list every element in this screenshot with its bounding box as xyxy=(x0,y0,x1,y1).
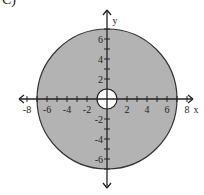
region-plot: -8-6-4-22468642-2-4-6xy xyxy=(0,0,204,195)
x-tick-label: -2 xyxy=(83,104,91,115)
x-tick-label: 6 xyxy=(165,104,170,115)
x-tick-label: 2 xyxy=(125,104,130,115)
y-tick-label: 2 xyxy=(98,74,103,85)
y-tick-label: -2 xyxy=(95,114,103,125)
x-tick-label: 8 xyxy=(185,104,190,115)
x-tick-label: -4 xyxy=(63,104,71,115)
x-tick-label: 4 xyxy=(145,104,150,115)
x-tick-label: -6 xyxy=(43,104,51,115)
x-tick-label: -8 xyxy=(23,104,31,115)
y-axis-label: y xyxy=(113,15,118,26)
x-axis-label: x xyxy=(194,104,199,115)
y-tick-label: 6 xyxy=(98,34,103,45)
y-tick-label: 4 xyxy=(98,54,103,65)
y-tick-label: -6 xyxy=(95,154,103,165)
y-tick-label: -4 xyxy=(95,134,103,145)
